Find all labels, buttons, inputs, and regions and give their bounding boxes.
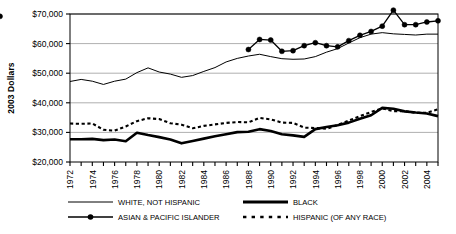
x-axis-ticks — [70, 162, 438, 166]
gridlines — [70, 14, 438, 132]
series-marker — [279, 49, 284, 54]
legend-marker — [88, 214, 94, 220]
x-axis-tick-label: 1974 — [88, 170, 98, 189]
x-axis-tick-label: 1996 — [333, 170, 343, 189]
x-axis-tick-label: 1994 — [311, 170, 321, 189]
series-marker — [391, 8, 396, 13]
series-marker — [246, 47, 251, 52]
series-marker — [436, 18, 441, 23]
legend-label: ASIAN & PACIFIC ISLANDER — [118, 213, 220, 222]
series-marker — [324, 43, 329, 48]
series-marker — [424, 19, 429, 24]
y-axis-tick-label: $60,000 — [32, 39, 63, 49]
data-series-layer — [0, 8, 441, 144]
x-axis-tick-label: 1998 — [355, 170, 365, 189]
series-marker — [380, 24, 385, 29]
series-marker — [346, 38, 351, 43]
legend-label: BLACK — [293, 198, 318, 207]
series-marker — [357, 33, 362, 38]
x-axis-tick-label: 2000 — [377, 170, 387, 189]
x-axis-tick-labels: 1972197419761978198019821984198619881990… — [65, 170, 432, 189]
y-axis-tick-label: $40,000 — [32, 98, 63, 108]
series-marker — [369, 29, 374, 34]
series-marker — [0, 14, 3, 19]
series-marker — [313, 40, 318, 45]
x-axis-tick-label: 1992 — [288, 170, 298, 189]
y-axis-tick-labels: $20,000$30,000$40,000$50,000$60,000$70,0… — [32, 9, 63, 167]
y-axis-tick-label: $20,000 — [32, 157, 63, 167]
x-axis-tick-label: 1984 — [199, 170, 209, 189]
x-axis-tick-label: 1982 — [177, 170, 187, 189]
x-axis-tick-label: 1988 — [244, 170, 254, 189]
series-marker — [268, 38, 273, 43]
chart-plot: $20,000$30,000$40,000$50,000$60,000$70,0… — [0, 0, 456, 234]
series-marker — [413, 22, 418, 27]
chart-legend: WHITE, NOT HISPANICBLACKASIAN & PACIFIC … — [68, 198, 387, 222]
series-marker — [291, 48, 296, 53]
series-line — [70, 33, 438, 85]
legend-label: HISPANIC (OF ANY RACE) — [293, 213, 387, 222]
y-axis-tick-label: $70,000 — [32, 9, 63, 19]
x-axis-tick-label: 1986 — [221, 170, 231, 189]
x-axis-tick-label: 1980 — [154, 170, 164, 189]
y-axis-ticks — [66, 14, 70, 162]
series-marker — [257, 37, 262, 42]
series-line — [70, 108, 438, 130]
y-axis-tick-label: $30,000 — [32, 127, 63, 137]
x-axis-tick-label: 1978 — [132, 170, 142, 189]
x-axis-tick-label: 2002 — [400, 170, 410, 189]
series-marker — [302, 43, 307, 48]
x-axis-tick-label: 2004 — [422, 170, 432, 189]
chart-figure: 2003 Dollars $20,000$30,000$40,000$50,00… — [0, 0, 456, 234]
legend-label: WHITE, NOT HISPANIC — [118, 198, 201, 207]
series-line — [248, 10, 438, 51]
series-marker — [335, 44, 340, 49]
x-axis-tick-label: 1990 — [266, 170, 276, 189]
series-marker — [402, 22, 407, 27]
x-axis-tick-label: 1972 — [65, 170, 75, 189]
plot-frame — [70, 14, 438, 162]
series-line — [70, 108, 438, 144]
y-axis-tick-label: $50,000 — [32, 68, 63, 78]
x-axis-tick-label: 1976 — [110, 170, 120, 189]
